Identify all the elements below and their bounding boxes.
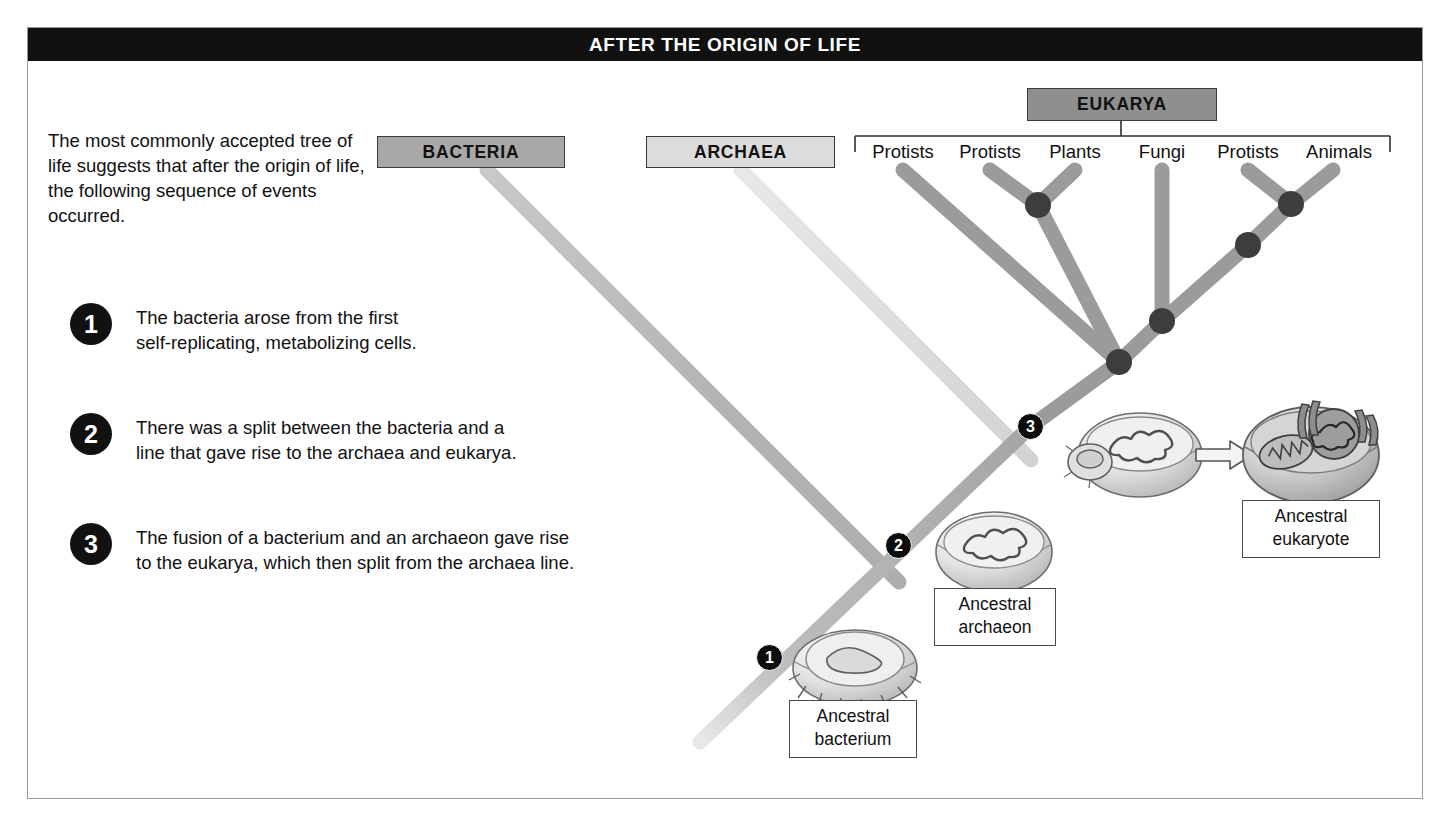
step-text: The bacteria arose from the first self-r… [136, 303, 690, 355]
tree-marker-1: 1 [756, 644, 783, 671]
step-text: The fusion of a bacterium and an archaeo… [136, 523, 690, 575]
steps-list: 1 The bacteria arose from the first self… [70, 303, 690, 633]
list-item: 1 The bacteria arose from the first self… [70, 303, 690, 361]
figure-root: AFTER THE ORIGIN OF LIFE [0, 0, 1455, 833]
leaf-label-fungi: Fungi [1124, 141, 1200, 163]
caption-ancestral-eukaryote: Ancestral eukaryote [1242, 500, 1380, 558]
step-number-badge: 1 [70, 303, 112, 345]
leaf-label-protists-3: Protists [1200, 141, 1296, 163]
tree-marker-3: 3 [1017, 413, 1044, 440]
domain-label-eukarya: EUKARYA [1027, 88, 1217, 121]
tree-marker-2: 2 [885, 532, 912, 559]
caption-ancestral-bacterium: Ancestral bacterium [789, 700, 917, 758]
caption-ancestral-archaeon: Ancestral archaeon [934, 588, 1056, 646]
list-item: 3 The fusion of a bacterium and an archa… [70, 523, 690, 581]
leaf-label-animals: Animals [1291, 141, 1387, 163]
page-title: AFTER THE ORIGIN OF LIFE [589, 34, 861, 56]
step-number-badge: 2 [70, 413, 112, 455]
leaf-label-protists-2: Protists [942, 141, 1038, 163]
step-text: There was a split between the bacteria a… [136, 413, 690, 465]
list-item: 2 There was a split between the bacteria… [70, 413, 690, 471]
leaf-label-protists-1: Protists [855, 141, 951, 163]
step-number-badge: 3 [70, 523, 112, 565]
figure-title-bar: AFTER THE ORIGIN OF LIFE [28, 28, 1422, 61]
intro-paragraph: The most commonly accepted tree of life … [48, 128, 368, 228]
domain-label-archaea: ARCHAEA [646, 136, 835, 168]
leaf-label-plants: Plants [1032, 141, 1118, 163]
domain-label-bacteria: BACTERIA [377, 136, 565, 168]
